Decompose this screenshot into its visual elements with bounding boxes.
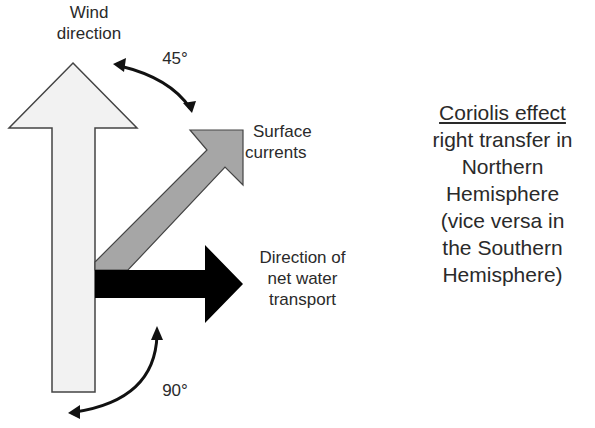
- coriolis-line: the Southern: [410, 234, 595, 261]
- coriolis-note: Coriolis effect right transfer in Northe…: [410, 99, 595, 288]
- wind-direction-label: Wind direction: [44, 2, 134, 44]
- surface-currents-label: Surface currents: [245, 121, 320, 163]
- transport-label-line: transport: [240, 289, 365, 310]
- surface-label-line: currents: [245, 142, 320, 163]
- coriolis-title: Coriolis effect: [410, 99, 595, 126]
- wind-direction-arrow: [9, 63, 137, 392]
- wind-label-line: direction: [44, 23, 134, 44]
- wind-label-line: Wind: [44, 2, 134, 23]
- coriolis-line: right transfer in: [410, 126, 595, 153]
- surface-currents-arrow: [95, 130, 243, 270]
- angle-90-label: 90°: [155, 380, 195, 401]
- net-transport-label: Direction of net water transport: [240, 247, 365, 310]
- coriolis-line: Hemisphere: [410, 180, 595, 207]
- transport-label-line: Direction of: [240, 247, 365, 268]
- angle-45-label: 45°: [155, 48, 195, 69]
- surface-label-line: Surface: [245, 121, 320, 142]
- coriolis-line: (vice versa in: [410, 207, 595, 234]
- transport-label-line: net water: [240, 268, 365, 289]
- coriolis-line: Northern: [410, 153, 595, 180]
- coriolis-line: Hemisphere): [410, 261, 595, 288]
